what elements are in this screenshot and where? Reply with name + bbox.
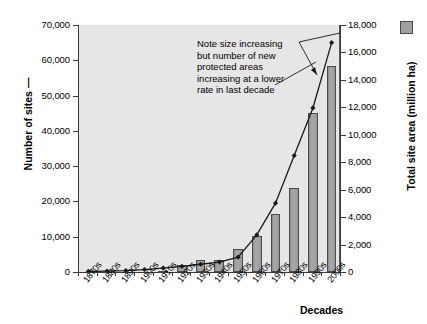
line-marker-1990s bbox=[310, 105, 315, 110]
right-tick-label-6,000: 6,000 bbox=[348, 185, 371, 195]
x-tick-1910s bbox=[153, 272, 154, 276]
left-tick-label-50,000: 50,000 bbox=[42, 91, 70, 101]
left-tick-label-10,000: 10,000 bbox=[42, 232, 70, 242]
x-axis-title: Decades bbox=[300, 304, 343, 316]
left-tick-60,000 bbox=[73, 60, 78, 61]
x-tick-1870s bbox=[78, 272, 79, 276]
line-marker-1980s bbox=[292, 153, 297, 158]
right-tick-12,000 bbox=[341, 107, 346, 108]
x-tick-2000s bbox=[321, 272, 322, 276]
right-tick-4,000 bbox=[341, 217, 346, 218]
legend-bar-swatch bbox=[400, 21, 413, 34]
left-tick-label-0: 0 bbox=[65, 267, 70, 277]
right-tick-16,000 bbox=[341, 52, 346, 53]
annotation-line-3: protected areas bbox=[197, 61, 309, 73]
right-tick-label-4,000: 4,000 bbox=[348, 212, 371, 222]
left-tick-50,000 bbox=[73, 96, 78, 97]
left-tick-label-40,000: 40,000 bbox=[42, 126, 70, 136]
annotation-line-4: increasing at a lower bbox=[197, 73, 309, 85]
x-tick-end bbox=[340, 272, 341, 276]
right-tick-8,000 bbox=[341, 162, 346, 163]
left-tick-40,000 bbox=[73, 131, 78, 132]
left-axis-title: Number of sites — bbox=[22, 49, 34, 199]
annotation-line-5: rate in last decade bbox=[197, 84, 309, 96]
x-tick-1930s bbox=[190, 272, 191, 276]
x-tick-1890s bbox=[115, 272, 116, 276]
x-tick-1950s bbox=[228, 272, 229, 276]
left-tick-10,000 bbox=[73, 237, 78, 238]
x-tick-1920s bbox=[172, 272, 173, 276]
chart-figure: 010,00020,00030,00040,00050,00060,00070,… bbox=[0, 0, 427, 324]
x-tick-1940s bbox=[209, 272, 210, 276]
left-tick-label-70,000: 70,000 bbox=[42, 20, 70, 30]
x-tick-1990s bbox=[303, 272, 304, 276]
chart-annotation: Note size increasingbut number of newpro… bbox=[197, 38, 309, 96]
right-tick-label-12,000: 12,000 bbox=[348, 102, 376, 112]
x-tick-1970s bbox=[265, 272, 266, 276]
right-tick-label-18,000: 18,000 bbox=[348, 20, 376, 30]
right-tick-label-0: 0 bbox=[348, 267, 353, 277]
right-tick-label-16,000: 16,000 bbox=[348, 47, 376, 57]
right-axis-line bbox=[340, 25, 341, 273]
x-tick-1880s bbox=[97, 272, 98, 276]
x-tick-1960s bbox=[246, 272, 247, 276]
left-tick-label-60,000: 60,000 bbox=[42, 55, 70, 65]
right-axis-title: Total site area (million ha) bbox=[405, 31, 417, 221]
right-tick-label-2,000: 2,000 bbox=[348, 240, 371, 250]
left-axis-title-text: Number of sites bbox=[22, 91, 34, 170]
right-tick-14,000 bbox=[341, 80, 346, 81]
left-tick-30,000 bbox=[73, 166, 78, 167]
left-axis-line bbox=[78, 25, 79, 273]
left-axis-line-marker: — bbox=[22, 78, 34, 89]
right-tick-10,000 bbox=[341, 135, 346, 136]
right-tick-label-14,000: 14,000 bbox=[348, 75, 376, 85]
annotation-line-2: but number of new bbox=[197, 50, 309, 62]
left-tick-label-20,000: 20,000 bbox=[42, 196, 70, 206]
right-tick-6,000 bbox=[341, 190, 346, 191]
x-tick-1980s bbox=[284, 272, 285, 276]
right-tick-label-10,000: 10,000 bbox=[348, 130, 376, 140]
left-tick-70,000 bbox=[73, 25, 78, 26]
right-tick-18,000 bbox=[341, 25, 346, 26]
annotation-line-1: Note size increasing bbox=[197, 38, 309, 50]
line-marker-2000s bbox=[329, 40, 334, 45]
right-tick-2,000 bbox=[341, 245, 346, 246]
left-tick-20,000 bbox=[73, 201, 78, 202]
x-tick-1900s bbox=[134, 272, 135, 276]
line-marker-1940s bbox=[217, 260, 222, 265]
right-tick-label-8,000: 8,000 bbox=[348, 157, 371, 167]
left-tick-label-30,000: 30,000 bbox=[42, 161, 70, 171]
